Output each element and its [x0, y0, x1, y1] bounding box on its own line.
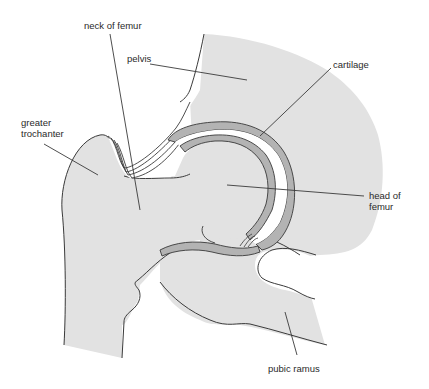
label-head-of-femur: head of femur — [369, 190, 401, 212]
label-cartilage: cartilage — [333, 59, 369, 70]
label-neck-of-femur: neck of femur — [84, 20, 142, 31]
label-pubic-ramus: pubic ramus — [268, 363, 320, 374]
label-greater-trochanter: greater trochanter — [21, 117, 64, 139]
label-pelvis: pelvis — [127, 53, 151, 64]
